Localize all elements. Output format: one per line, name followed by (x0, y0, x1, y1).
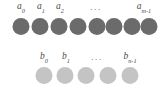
node-label-sequence-b-0: b0 (40, 50, 48, 63)
figure-canvas: a0a1a2am-1...b0b1bn-1... (0, 0, 161, 97)
node-label-sequence-a-1: a1 (37, 0, 45, 13)
label-subscript: 1 (42, 7, 45, 14)
node-sequence-b-2 (78, 67, 95, 84)
node-sequence-a-4 (89, 18, 106, 35)
node-sequence-b-0 (36, 67, 53, 84)
node-sequence-a-3 (70, 18, 87, 35)
node-label-sequence-b-1: b1 (62, 50, 70, 63)
node-sequence-b-4 (122, 67, 139, 84)
node-label-sequence-a-3: am-1 (137, 0, 152, 13)
label-subscript: 1 (67, 57, 70, 64)
node-label-sequence-a-0: a0 (17, 0, 25, 13)
label-subscript: 2 (61, 7, 64, 14)
label-subscript: 0 (45, 57, 48, 64)
node-label-sequence-a-2: a2 (56, 0, 64, 13)
ellipsis-sequence-b: ... (91, 51, 103, 64)
sequence-a-row: a0a1a2am-1... (0, 0, 161, 45)
label-subscript: n-1 (128, 57, 136, 64)
node-sequence-a-5 (106, 18, 123, 35)
sequence-a-labels: a0a1a2am-1... (0, 0, 161, 18)
node-sequence-b-3 (100, 67, 117, 84)
node-sequence-a-1 (32, 18, 49, 35)
sequence-b-labels: b0b1bn-1... (0, 50, 161, 68)
node-sequence-a-0 (13, 18, 30, 35)
node-sequence-b-1 (57, 67, 74, 84)
sequence-b-row: b0b1bn-1... (0, 50, 161, 97)
ellipsis-sequence-a: ... (90, 1, 102, 14)
label-subscript: 0 (22, 7, 25, 14)
sequence-b-nodes (0, 67, 161, 86)
label-subscript: m-1 (141, 7, 151, 14)
node-sequence-a-7 (141, 18, 158, 35)
node-sequence-a-6 (124, 18, 141, 35)
node-sequence-a-2 (51, 18, 68, 35)
node-label-sequence-b-2: bn-1 (123, 50, 136, 63)
sequence-a-nodes (0, 18, 161, 37)
